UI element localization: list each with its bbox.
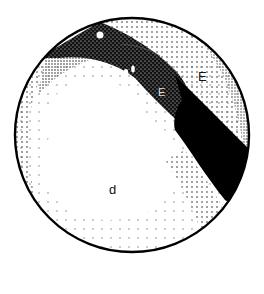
band-hole — [97, 32, 104, 39]
label-region-d: d — [109, 183, 116, 196]
label-region-e: E — [198, 70, 207, 83]
label-band-e: E — [158, 87, 165, 98]
stippled-circle-illustration — [0, 0, 264, 294]
